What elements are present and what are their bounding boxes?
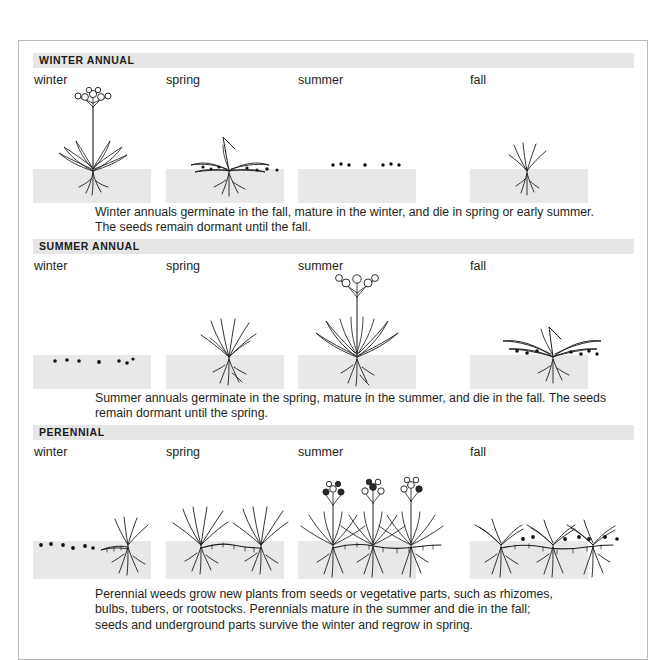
soil-panel-summer <box>298 169 416 203</box>
illustration-band-summer-annual <box>33 263 634 389</box>
seeds-summer-dormant <box>331 162 400 166</box>
caption-line: The seeds remain dormant until the fall. <box>95 220 640 235</box>
section-heading-summer-annual: SUMMER ANNUAL <box>39 240 140 252</box>
soil-panel-fall <box>470 355 588 389</box>
flower-head-summer <box>336 275 379 297</box>
illustration-band-winter-annual <box>33 77 634 203</box>
caption-winter-annual: Winter annuals germinate in the fall, ma… <box>95 205 640 236</box>
soil-panel-fall <box>470 169 588 203</box>
section-heading-perennial: PERENNIAL <box>39 426 105 438</box>
section-heading-winter-annual: WINTER ANNUAL <box>39 54 134 66</box>
caption-summer-annual: Summer annuals germinate in the spring, … <box>95 391 640 422</box>
figure-frame: WINTER ANNUAL winter spring summer fall <box>18 40 648 660</box>
caption-line: seeds and underground parts survive the … <box>95 618 640 633</box>
caption-line: bulbs, tubers, or rootstocks. Perennials… <box>95 602 640 617</box>
section-header-bar-summer-annual: SUMMER ANNUAL <box>33 239 634 254</box>
soil-panel-spring <box>166 355 284 389</box>
section-header-bar-winter-annual: WINTER ANNUAL <box>33 53 634 68</box>
caption-line: remain dormant until the spring. <box>95 406 640 421</box>
illustration-band-perennial <box>33 449 634 585</box>
flower-head-winter <box>75 87 111 107</box>
soil-panel-winter <box>33 169 151 203</box>
caption-perennial: Perennial weeds grow new plants from see… <box>95 587 640 633</box>
caption-line: Summer annuals germinate in the spring, … <box>95 391 640 406</box>
section-header-bar-perennial: PERENNIAL <box>33 425 634 440</box>
caption-line: Winter annuals germinate in the fall, ma… <box>95 205 640 220</box>
caption-line: Perennial weeds grow new plants from see… <box>95 587 640 602</box>
